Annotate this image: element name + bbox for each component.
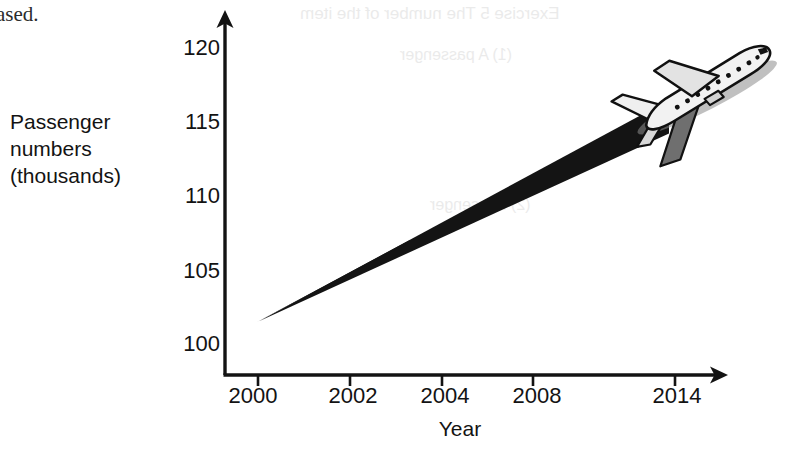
airplane-icon <box>607 18 796 176</box>
axes <box>217 10 729 384</box>
chart-figure: Exercise 5 The number of the item (1) A … <box>0 0 801 451</box>
plot-area <box>0 0 801 451</box>
